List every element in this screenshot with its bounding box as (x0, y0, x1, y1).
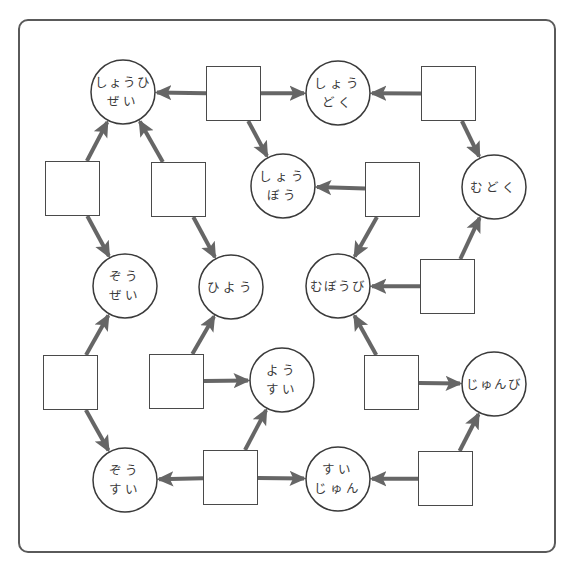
answer-box-7[interactable] (43, 355, 98, 410)
answer-box-3[interactable] (45, 161, 100, 216)
answer-box-5[interactable] (365, 162, 420, 217)
answer-box-2[interactable] (421, 66, 476, 121)
arrow-box-10-to-zousui (159, 478, 203, 479)
arrow-box-2-to-mudoku (462, 121, 479, 156)
arrow-box-3-to-shouhizei (87, 122, 107, 161)
arrow-box-7-to-zouzei (86, 316, 108, 355)
arrow-box-6-to-mudoku (460, 218, 479, 259)
word-circle-shoubou (251, 154, 315, 218)
arrow-box-3-to-zouzei (87, 216, 109, 256)
arrow-box-1-to-shoubou (248, 121, 267, 156)
arrow-box-1-to-shouhizei (157, 92, 206, 93)
word-circle-suijun (306, 447, 370, 511)
word-circle-zouzei (93, 254, 157, 318)
answer-box-1[interactable] (206, 66, 261, 121)
answer-box-4[interactable] (151, 162, 206, 217)
kanji-compound-diagram (0, 0, 575, 574)
answer-box-10[interactable] (203, 450, 258, 505)
word-circle-yousui (250, 348, 314, 412)
word-circle-hiyou (199, 255, 263, 319)
arrow-box-4-to-hiyou (193, 217, 215, 257)
arrow-box-9-to-junbi (419, 383, 460, 384)
arrow-box-9-to-mubou-bi (354, 316, 376, 355)
answer-box-9[interactable] (364, 355, 419, 410)
word-circle-zousui (93, 448, 157, 512)
arrow-box-8-to-yousui (204, 380, 248, 381)
word-circle-junbi (462, 352, 526, 416)
arrow-box-10-to-suijun (258, 478, 304, 479)
arrow-box-11-to-junbi (460, 414, 479, 451)
arrow-box-5-to-mubou-bi (355, 217, 377, 256)
answer-box-8[interactable] (149, 354, 204, 409)
answer-box-6[interactable] (420, 259, 475, 314)
arrow-box-8-to-hiyou (192, 316, 214, 354)
arrow-box-7-to-zousui (86, 410, 109, 450)
arrow-box-10-to-yousui (245, 410, 266, 450)
word-circle-shouhizei (91, 60, 155, 124)
arrow-box-5-to-shoubou (317, 187, 365, 189)
word-circle-mubou-bi (306, 254, 370, 318)
word-circle-mudoku (462, 155, 526, 219)
arrow-box-4-to-shouhizei (140, 122, 163, 162)
word-circle-shoudoku (306, 61, 370, 125)
answer-box-11[interactable] (418, 451, 473, 506)
